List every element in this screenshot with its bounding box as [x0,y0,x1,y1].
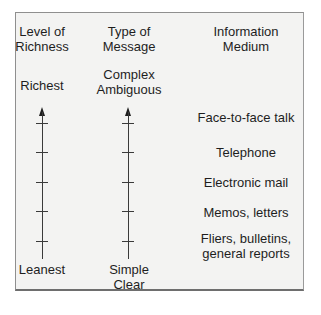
axis-tick [36,241,48,242]
header-level-of-richness: Level of Richness [15,24,68,54]
medium-electronic-mail: Electronic mail [204,175,289,190]
header-line: Information [213,24,278,39]
axis-tick [122,241,134,242]
medium-memos-letters: Memos, letters [203,205,288,220]
label-leanest: Leanest [19,262,65,277]
axis-tick [122,123,134,124]
medium-line: Fliers, bulletins, [201,231,291,246]
header-type-of-message: Type of Message [103,24,156,54]
axis-tick [122,152,134,153]
axis-tick [36,211,48,212]
message-axis [128,112,129,259]
axis-tick [122,182,134,183]
medium-line: general reports [201,246,291,261]
header-information-medium: Information Medium [213,24,278,54]
label-line: Simple [109,262,149,277]
label-line: Complex [96,67,161,82]
medium-face-to-face: Face-to-face talk [198,110,295,125]
medium-fliers-bulletins: Fliers, bulletins, general reports [201,231,291,261]
richness-axis [42,112,43,259]
axis-tick [36,123,48,124]
header-line: Medium [213,39,278,54]
axis-tick [36,182,48,183]
label-line: Clear [109,277,149,292]
label-line: Ambiguous [96,82,161,97]
label-richest: Richest [20,78,63,93]
medium-telephone: Telephone [216,145,276,160]
axis-tick [122,211,134,212]
header-line: Level of [15,24,68,39]
header-line: Richness [15,39,68,54]
header-line: Type of [103,24,156,39]
header-line: Message [103,39,156,54]
label-complex-ambiguous: Complex Ambiguous [96,67,161,97]
axis-tick [36,152,48,153]
label-simple-clear: Simple Clear [109,262,149,292]
